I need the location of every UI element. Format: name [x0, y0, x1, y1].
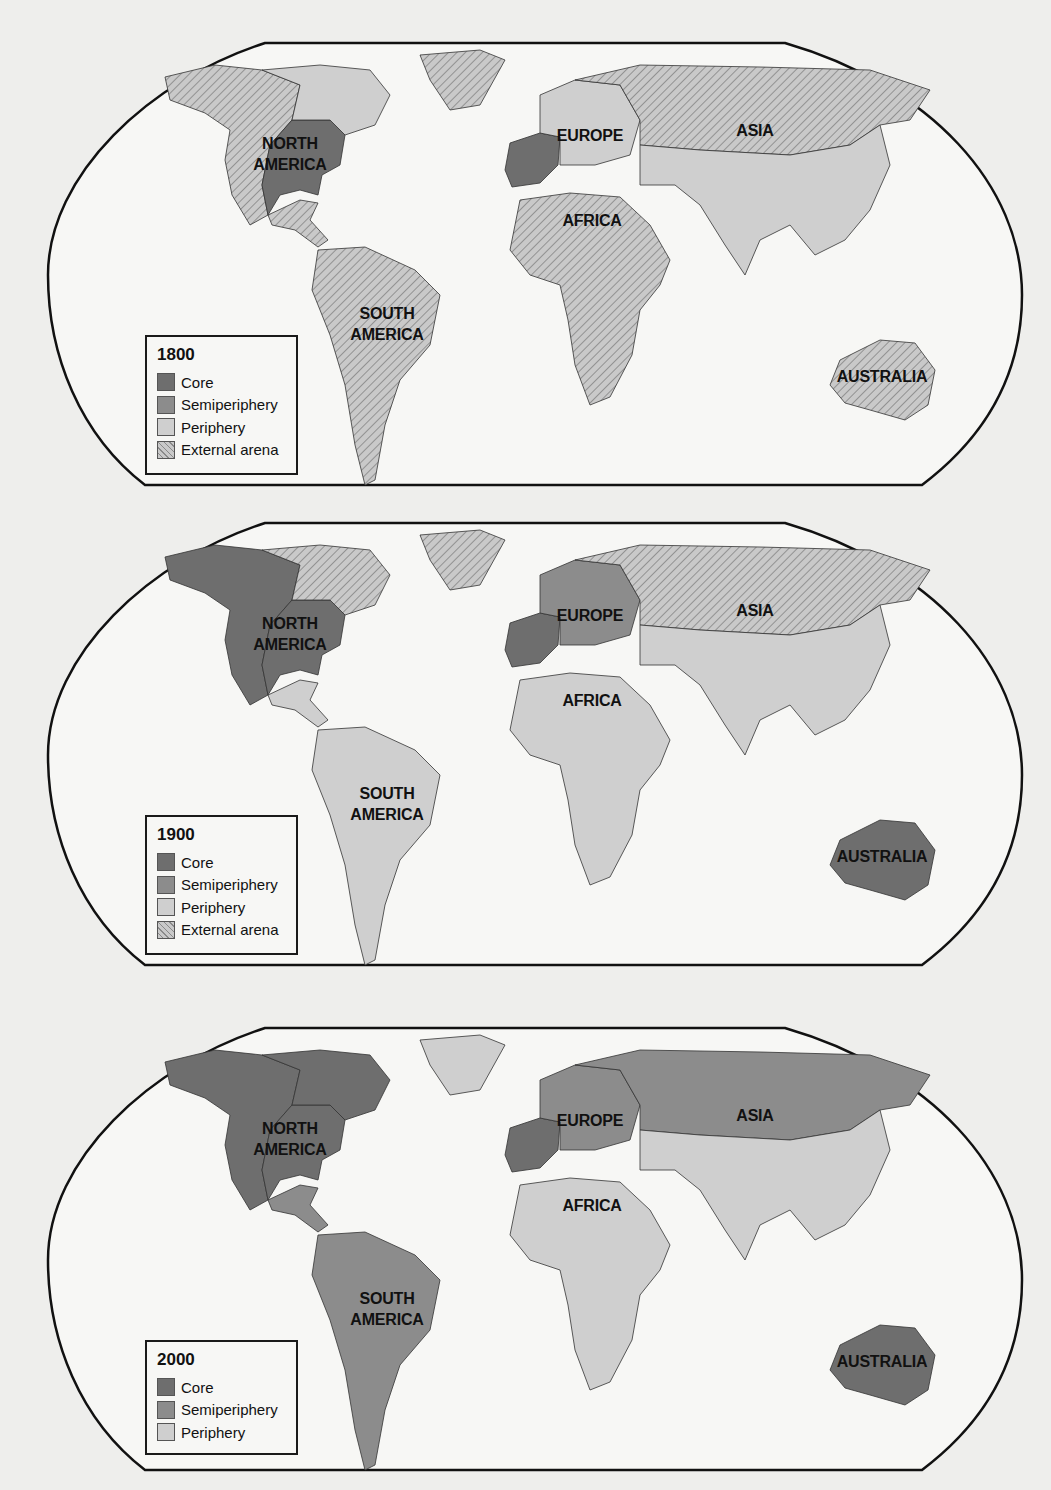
label-australia: AUSTRALIA: [837, 1351, 928, 1372]
label-australia: AUSTRALIA: [837, 366, 928, 387]
legend-title: 2000: [157, 1350, 286, 1370]
label-europe: EUROPE: [557, 125, 623, 146]
legend-swatch: [157, 876, 175, 894]
label-south-america: SOUTHAMERICA: [350, 303, 423, 345]
map-legend: 2000CoreSemiperipheryPeriphery: [145, 1340, 298, 1455]
legend-item-core: Core: [157, 371, 286, 394]
label-line: AMERICA: [253, 154, 326, 175]
label-line: SOUTH: [350, 1288, 423, 1309]
legend-swatch: [157, 898, 175, 916]
legend-label: External arena: [181, 921, 279, 938]
label-line: AMERICA: [253, 634, 326, 655]
legend-item-periphery: Periphery: [157, 896, 286, 919]
label-line: NORTH: [253, 613, 326, 634]
label-asia: ASIA: [736, 120, 773, 141]
legend-label: Core: [181, 854, 214, 871]
label-australia: AUSTRALIA: [837, 846, 928, 867]
legend-label: External arena: [181, 441, 279, 458]
legend-label: Core: [181, 374, 214, 391]
legend-item-core: Core: [157, 851, 286, 874]
label-north-america: NORTHAMERICA: [253, 133, 326, 175]
legend-label: Semiperiphery: [181, 1401, 278, 1418]
legend-swatch: [157, 921, 175, 939]
legend-label: Periphery: [181, 1424, 245, 1441]
legend-item-semiperiphery: Semiperiphery: [157, 874, 286, 897]
legend-label: Periphery: [181, 899, 245, 916]
legend-item-semiperiphery: Semiperiphery: [157, 1399, 286, 1422]
label-asia: ASIA: [736, 600, 773, 621]
legend-label: Semiperiphery: [181, 396, 278, 413]
label-south-america: SOUTHAMERICA: [350, 783, 423, 825]
legend-swatch: [157, 1423, 175, 1441]
legend-title: 1900: [157, 825, 286, 845]
legend-swatch: [157, 441, 175, 459]
legend-item-periphery: Periphery: [157, 1421, 286, 1444]
legend-swatch: [157, 1401, 175, 1419]
label-europe: EUROPE: [557, 605, 623, 626]
label-north-america: NORTHAMERICA: [253, 1118, 326, 1160]
label-africa: AFRICA: [562, 690, 621, 711]
legend-item-external: External arena: [157, 919, 286, 942]
legend-swatch: [157, 853, 175, 871]
legend-swatch: [157, 396, 175, 414]
legend-item-periphery: Periphery: [157, 416, 286, 439]
label-line: AMERICA: [350, 804, 423, 825]
label-line: SOUTH: [350, 303, 423, 324]
label-line: NORTH: [253, 133, 326, 154]
map-legend: 1800CoreSemiperipheryPeripheryExternal a…: [145, 335, 298, 475]
legend-title: 1800: [157, 345, 286, 365]
label-line: AMERICA: [350, 324, 423, 345]
label-line: AMERICA: [253, 1139, 326, 1160]
legend-swatch: [157, 418, 175, 436]
map-legend: 1900CoreSemiperipheryPeripheryExternal a…: [145, 815, 298, 955]
label-europe: EUROPE: [557, 1110, 623, 1131]
label-line: SOUTH: [350, 783, 423, 804]
map-panel-2000: NORTHAMERICASOUTHAMERICAEUROPEASIAAFRICA…: [0, 1010, 1051, 1480]
legend-item-semiperiphery: Semiperiphery: [157, 394, 286, 417]
legend-label: Periphery: [181, 419, 245, 436]
map-panel-1900: NORTHAMERICASOUTHAMERICAEUROPEASIAAFRICA…: [0, 505, 1051, 975]
legend-swatch: [157, 373, 175, 391]
label-north-america: NORTHAMERICA: [253, 613, 326, 655]
legend-item-core: Core: [157, 1376, 286, 1399]
legend-label: Semiperiphery: [181, 876, 278, 893]
label-africa: AFRICA: [562, 1195, 621, 1216]
label-line: AMERICA: [350, 1309, 423, 1330]
label-asia: ASIA: [736, 1105, 773, 1126]
map-panel-1800: NORTHAMERICASOUTHAMERICAEUROPEASIAAFRICA…: [0, 25, 1051, 495]
label-line: NORTH: [253, 1118, 326, 1139]
label-south-america: SOUTHAMERICA: [350, 1288, 423, 1330]
legend-item-external: External arena: [157, 439, 286, 462]
label-africa: AFRICA: [562, 210, 621, 231]
legend-swatch: [157, 1378, 175, 1396]
legend-label: Core: [181, 1379, 214, 1396]
